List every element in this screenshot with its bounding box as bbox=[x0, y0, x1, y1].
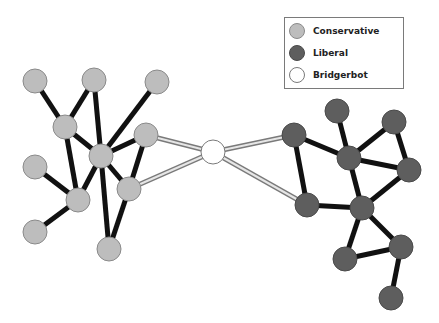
node-conservative bbox=[117, 177, 141, 201]
edge bbox=[101, 156, 109, 249]
node-liberal bbox=[350, 196, 374, 220]
node-liberal bbox=[382, 110, 406, 134]
node-conservative bbox=[134, 123, 158, 147]
legend-label-liberal: Liberal bbox=[313, 48, 348, 58]
node-liberal bbox=[337, 146, 361, 170]
legend: Conservative Liberal Bridgerbot bbox=[284, 17, 404, 89]
node-conservative bbox=[53, 115, 77, 139]
node-liberal bbox=[333, 247, 357, 271]
node-liberal bbox=[397, 158, 421, 182]
legend-item-liberal: Liberal bbox=[289, 44, 348, 62]
bridge-edge bbox=[129, 152, 213, 189]
node-liberal bbox=[325, 99, 349, 123]
node-liberal bbox=[282, 123, 306, 147]
nodes-layer bbox=[23, 68, 421, 310]
node-conservative bbox=[82, 68, 106, 92]
node-conservative bbox=[23, 220, 47, 244]
legend-item-conservative: Conservative bbox=[289, 22, 379, 40]
bridge-edge bbox=[213, 152, 307, 205]
conservative-swatch-icon bbox=[289, 23, 305, 39]
node-conservative bbox=[23, 69, 47, 93]
bridgerbot-swatch-icon bbox=[289, 67, 305, 83]
liberal-swatch-icon bbox=[289, 45, 305, 61]
node-conservative bbox=[66, 188, 90, 212]
legend-label-conservative: Conservative bbox=[313, 26, 379, 36]
node-liberal bbox=[389, 235, 413, 259]
node-bridgerbot bbox=[201, 140, 225, 164]
node-liberal bbox=[295, 193, 319, 217]
node-conservative bbox=[145, 70, 169, 94]
node-conservative bbox=[89, 144, 113, 168]
node-liberal bbox=[379, 286, 403, 310]
legend-item-bridgerbot: Bridgerbot bbox=[289, 66, 368, 84]
node-conservative bbox=[23, 155, 47, 179]
legend-label-bridgerbot: Bridgerbot bbox=[313, 70, 368, 80]
node-conservative bbox=[97, 237, 121, 261]
